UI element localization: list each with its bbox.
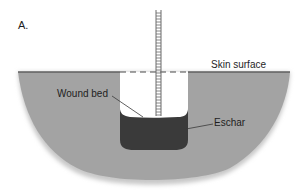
- skin-surface-label: Skin surface: [211, 59, 266, 70]
- eschar-label: Eschar: [214, 117, 246, 128]
- wound-diagram: A.: [0, 0, 302, 195]
- wound-cross-section-svg: A.: [0, 0, 302, 195]
- wound-bed-label: Wound bed: [57, 88, 108, 99]
- panel-label: A.: [18, 19, 28, 31]
- wound-cavity: [120, 72, 188, 118]
- measuring-ruler: [156, 10, 161, 116]
